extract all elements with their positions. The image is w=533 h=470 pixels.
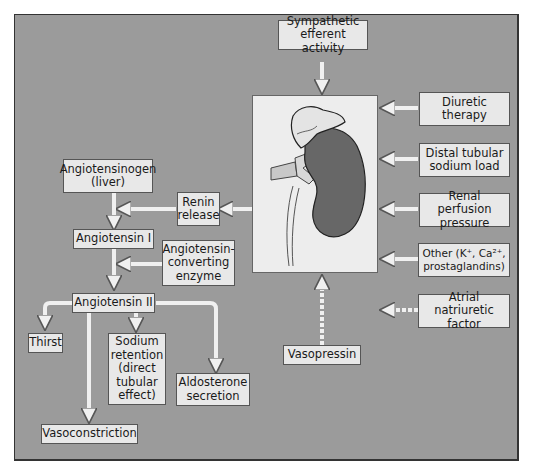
node-sodium-retention: Sodium retention (direct tubular effect) [108, 333, 166, 405]
node-renal-perfusion-pressure: Renal perfusion pressure [419, 193, 510, 227]
node-diuretic-therapy: Diuretic therapy [419, 92, 510, 126]
node-vasopressin: Vasopressin [283, 345, 361, 365]
node-angiotensin-converting-enzyme: Angiotensin- converting enzyme [162, 240, 235, 286]
node-sympathetic-efferent-activity: Sympathetic efferent activity [278, 20, 368, 50]
node-angiotensin-2: Angiotensin II [72, 293, 155, 313]
node-angiotensinogen: Angiotensinogen (liver) [63, 159, 153, 193]
node-other-factors: Other (K⁺, Ca²⁺, prostaglandins) [418, 243, 510, 277]
node-distal-tubular-sodium-load: Distal tubular sodium load [419, 143, 510, 177]
node-thirst: Thirst [28, 333, 63, 353]
node-atrial-natriuretic-factor: Atrial natriuretic factor [418, 294, 510, 328]
node-angiotensin-1: Angiotensin I [73, 229, 154, 249]
node-renin-release: Renin release [177, 192, 220, 226]
arrow-thirst [45, 303, 73, 329]
node-aldosterone-secretion: Aldosterone secretion [176, 373, 250, 406]
node-vasoconstriction: Vasoconstriction [41, 424, 138, 444]
